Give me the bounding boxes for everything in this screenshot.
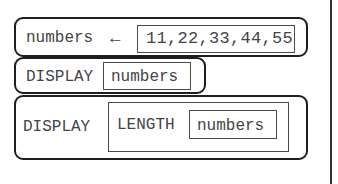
right-divider-line <box>330 0 332 184</box>
length-keyword: LENGTH <box>117 117 175 133</box>
display-keyword: DISPLAY <box>23 119 90 135</box>
length-argument: numbers <box>197 118 264 134</box>
assign-arrow-icon: ← <box>107 29 124 46</box>
display-keyword: DISPLAY <box>26 69 93 85</box>
assignment-value: 11,22,33,44,55 <box>146 30 293 47</box>
display-argument: numbers <box>111 69 178 85</box>
assignment-variable: numbers <box>26 30 93 46</box>
